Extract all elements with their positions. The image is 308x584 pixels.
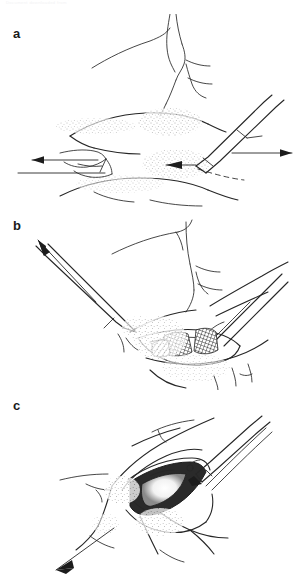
stipple-shading-c	[60, 460, 260, 570]
retraction-arrow-b[interactable]	[38, 240, 96, 302]
stipple-shading-a	[50, 106, 260, 206]
anatomy-contours-a	[92, 14, 212, 116]
anatomy-contours-b	[112, 220, 222, 312]
panel-a-illustration	[0, 14, 308, 210]
panel-b-illustration	[0, 210, 308, 390]
panel-c-illustration	[0, 390, 308, 584]
stipple-shading-b	[110, 306, 300, 390]
figure-root: Document downloaded from a	[0, 0, 308, 584]
watermark-text: Document downloaded from	[6, 0, 67, 5]
